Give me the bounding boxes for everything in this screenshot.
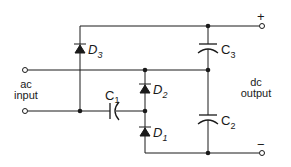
d3-label: D3 [88, 42, 102, 60]
minus-sign: − [257, 137, 265, 152]
junction-dot [78, 109, 83, 114]
d2-label: D2 [153, 82, 167, 100]
dc-output-label: dc output [236, 77, 276, 99]
junction-dot [206, 24, 211, 29]
junction-dot [206, 151, 211, 156]
ac-input-terminal-lower [23, 109, 28, 114]
c2-label: C2 [221, 113, 235, 131]
ac-input-terminal-upper [23, 68, 28, 73]
junction-dot [143, 68, 148, 73]
junction-dot [143, 109, 148, 114]
diode-d3 [74, 44, 86, 53]
c3-label: C3 [221, 42, 235, 60]
dc-output-terminal-positive [260, 24, 265, 29]
diode-d1 [139, 127, 151, 136]
ac-input-label-line2: input [12, 90, 40, 101]
plus-sign: + [257, 9, 265, 24]
dc-output-label-line2: output [236, 88, 276, 99]
diode-d2 [139, 84, 151, 93]
d1-label: D1 [153, 125, 167, 143]
ac-input-label: ac input [12, 79, 40, 101]
junction-dot [206, 68, 211, 73]
c1-label: C1 [105, 88, 119, 105]
